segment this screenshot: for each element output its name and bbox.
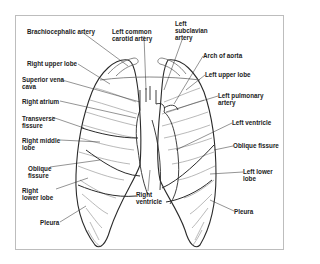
label-left-common-carotid-artery: Left common carotid artery (112, 28, 152, 42)
label-right-atrium: Right atrium (22, 98, 59, 105)
label-left-lower-lobe: Left lower lobe (243, 168, 273, 182)
label-right-ventricle: Right ventricle (136, 191, 162, 205)
heart (136, 86, 178, 204)
left-lung (158, 60, 216, 247)
label-oblique-fissure-right: Oblique fissure (28, 165, 51, 179)
label-left-ventricle: Left ventricle (232, 119, 271, 126)
label-superior-vena-cava: Superior vena cava (22, 76, 64, 90)
label-left-pulmonary-artery: Left pulmonary artery (218, 92, 263, 106)
label-right-lower-lobe: Right lower lobe (22, 187, 53, 201)
label-left-subclavian-artery: Left subclavian artery (175, 20, 208, 42)
label-right-middle-lobe: Right middle lobe (22, 137, 60, 151)
label-right-upper-lobe: Right upper lobe (27, 60, 77, 67)
label-transverse-fissure: Transverse fissure (22, 115, 55, 129)
right-lung (76, 60, 141, 247)
label-left-upper-lobe: Left upper lobe (205, 71, 250, 78)
label-brachiocephalic-artery: Brachiocephalic artery (27, 28, 95, 35)
label-pleura-left: Pleura (234, 208, 253, 215)
label-oblique-fissure-left: Oblique fissure (233, 142, 279, 149)
label-pleura-right: Pleura (40, 219, 59, 226)
label-arch-of-aorta: Arch of aorta (203, 52, 242, 59)
